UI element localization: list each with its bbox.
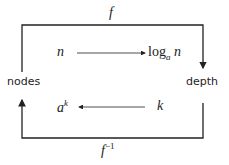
inverse-arrow <box>22 100 203 138</box>
a-k-label: ak <box>57 98 68 116</box>
nodes-label: nodes <box>7 75 40 88</box>
log-label: loga n <box>148 44 181 62</box>
f-inverse-label: f−1 <box>101 141 114 159</box>
depth-label: depth <box>186 75 218 88</box>
k-label: k <box>157 98 163 114</box>
f-label: f <box>109 5 113 21</box>
n-label: n <box>57 44 64 60</box>
